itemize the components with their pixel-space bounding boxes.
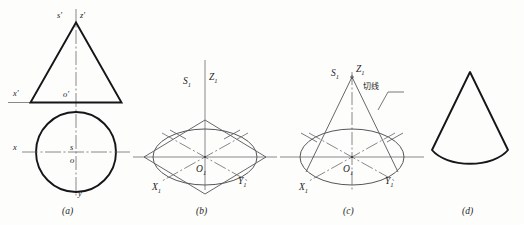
caption-c: (c): [343, 206, 354, 217]
label-s-prime: s': [57, 10, 62, 20]
caption-b: (b): [196, 206, 207, 217]
panel-c-origin-point: [351, 156, 353, 158]
label-z-prime: z': [79, 10, 85, 20]
label-x-prime: x': [12, 88, 19, 98]
annotation-tangent-line: 切线: [363, 81, 379, 91]
caption-d: (d): [462, 206, 473, 217]
label-o-prime: o': [63, 89, 69, 99]
label-y: y: [77, 188, 82, 198]
engineering-figure: s' z' x' o' x s o y (a) S1 Z1 O1 X1 Y1 (…: [0, 0, 524, 225]
caption-a: (a): [62, 206, 73, 217]
label-o: o: [70, 155, 74, 165]
panel-b-origin-point: [204, 156, 206, 158]
label-x: x: [12, 142, 17, 152]
